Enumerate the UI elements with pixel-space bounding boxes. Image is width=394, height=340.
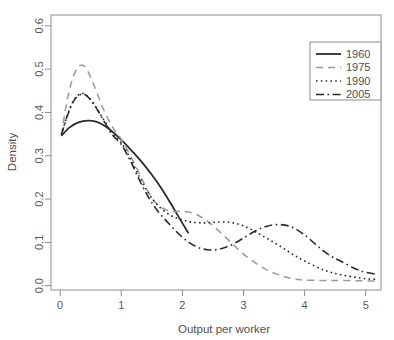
legend-label-1960: 1960 [346,48,370,60]
x-tick-label: 4 [302,299,308,311]
legend-label-1990: 1990 [346,75,370,87]
y-tick-label: 0.2 [33,191,45,206]
y-tick-label: 0.4 [33,105,45,120]
x-axis-tick-labels: 012345 [57,299,369,311]
x-axis-title: Output per worker [178,323,270,335]
series-line-1960 [61,121,188,234]
density-chart: 012345 0.00.10.20.30.40.50.6 Output per … [0,0,394,340]
y-axis-tick-labels: 0.00.10.20.30.40.50.6 [33,18,45,293]
chart-canvas: 012345 0.00.10.20.30.40.50.6 Output per … [0,0,394,340]
x-tick-label: 1 [118,299,124,311]
x-tick-label: 3 [240,299,246,311]
y-tick-label: 0.5 [33,61,45,76]
y-tick-label: 0.6 [33,18,45,33]
y-tick-label: 0.3 [33,148,45,163]
y-tick-label: 0.1 [33,235,45,250]
legend-label-2005: 2005 [346,88,370,100]
chart-legend: 1960197519902005 [310,42,381,100]
x-tick-label: 5 [363,299,369,311]
legend-label-1975: 1975 [346,61,370,73]
y-axis-title: Density [6,133,18,172]
x-tick-label: 2 [179,299,185,311]
x-tick-label: 0 [57,299,63,311]
y-tick-label: 0.0 [33,278,45,293]
